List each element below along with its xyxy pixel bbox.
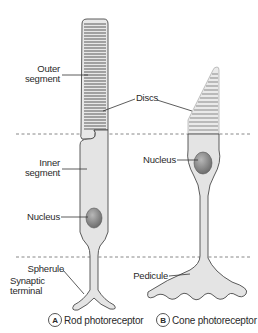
cone-caption: B Cone photoreceptor [156, 313, 257, 327]
rod-nucleus [86, 208, 102, 228]
rod-caption: A Rod photoreceptor [48, 313, 143, 327]
spherule-leader [63, 270, 84, 294]
spherule-label: Spherule [16, 264, 64, 274]
cone-badge: B [156, 313, 170, 327]
cone-outer-segment [188, 67, 219, 134]
pedicule-label: Pedicule [120, 271, 168, 281]
discs-leader-cone [157, 100, 192, 111]
rod-badge: A [48, 313, 62, 327]
nucleus-rod-label: Nucleus [16, 212, 60, 222]
rod-caption-text: Rod photoreceptor [64, 315, 143, 326]
cone-nucleus [194, 152, 212, 174]
synaptic-terminal-label: Synaptic terminal [10, 276, 60, 296]
nucleus-cone-label: Nucleus [132, 155, 176, 165]
inner-segment-label: Inner segment [20, 158, 60, 178]
cone-discs [189, 74, 218, 130]
cone-caption-text: Cone photoreceptor [172, 315, 257, 326]
outer-segment-label: Outer segment [20, 64, 60, 84]
rod-cell [73, 19, 116, 310]
rod-outer-segment [81, 19, 108, 139]
discs-label: Discs [134, 93, 160, 103]
